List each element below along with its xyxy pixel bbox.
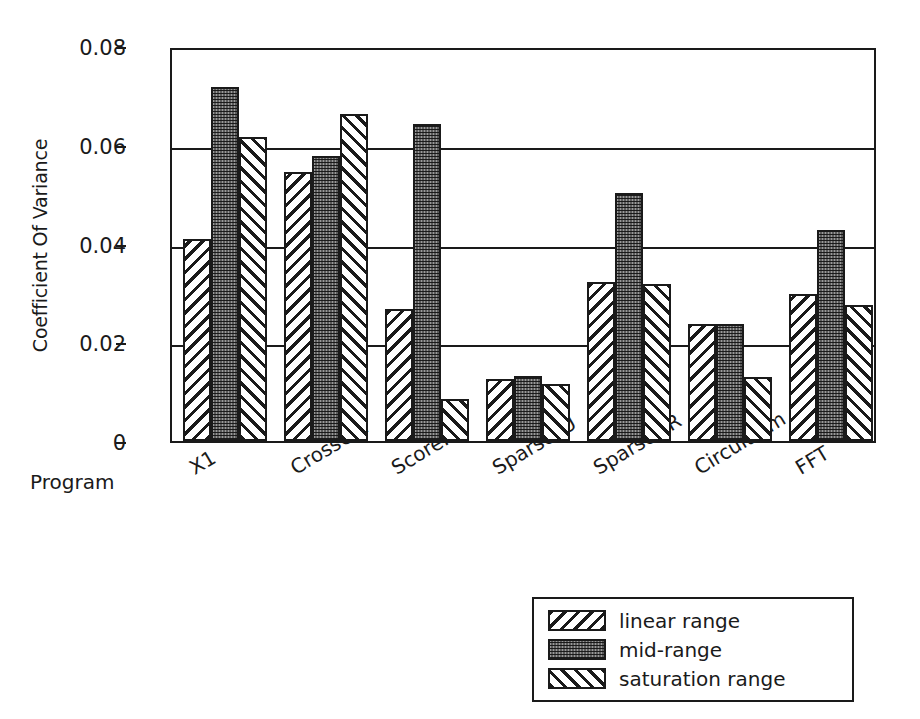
legend-swatch <box>548 668 606 689</box>
bar <box>789 294 817 441</box>
bar <box>385 309 413 441</box>
bar <box>716 324 744 442</box>
bar <box>239 137 267 441</box>
bar <box>587 282 615 441</box>
bar <box>486 379 514 441</box>
bar <box>744 377 772 441</box>
x-tick-label: X1 <box>185 445 220 479</box>
bar <box>615 193 643 441</box>
bar <box>183 239 211 441</box>
bar <box>211 87 239 442</box>
legend-item: mid-range <box>548 635 852 664</box>
bar-chart-figure: Coefficient Of Variance 00.020.040.060.0… <box>0 0 920 719</box>
bar <box>542 384 570 441</box>
bar <box>845 305 873 441</box>
bar <box>688 324 716 442</box>
bar <box>312 156 340 441</box>
bar <box>643 284 671 441</box>
legend-label: saturation range <box>619 669 786 689</box>
legend-item: saturation range <box>548 664 852 693</box>
legend-item: linear range <box>548 606 852 635</box>
legend-swatch <box>548 639 606 660</box>
legend-label: mid-range <box>619 640 722 660</box>
bar <box>284 172 312 441</box>
bar <box>413 124 441 441</box>
legend-swatch <box>548 610 606 631</box>
legend-label: linear range <box>619 611 740 631</box>
bar <box>817 230 845 441</box>
x-tick-label: FFT <box>791 441 833 480</box>
legend: linear rangemid-rangesaturation range <box>532 597 854 702</box>
bar <box>441 399 469 441</box>
x-axis-title: Program <box>30 470 114 494</box>
bar <box>340 114 368 441</box>
bar <box>514 376 542 441</box>
